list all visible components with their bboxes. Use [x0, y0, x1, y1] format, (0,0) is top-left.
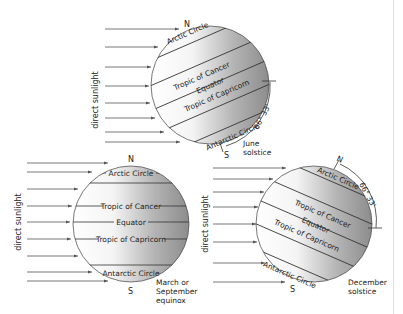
south-label: S: [224, 151, 229, 160]
december-solstice-panel: direct sunlight Arctic Circle Tropic of …: [201, 154, 397, 296]
caption-line3: equinox: [156, 296, 186, 305]
june-solstice-panel: direct sunlight Arctic Circle Tropic of …: [91, 14, 293, 160]
north-label: N: [128, 155, 134, 164]
north-label: N: [184, 20, 190, 29]
north-label: N: [335, 154, 344, 165]
south-label: S: [290, 285, 295, 294]
caption-line1: December: [348, 278, 388, 287]
caption-line2: solstice: [348, 287, 377, 296]
arctic-circle-label: Arctic Circle: [109, 169, 154, 178]
equinox-panel: direct sunlight Arctic Circle Tropic of …: [14, 155, 200, 305]
direct-sunlight-label: direct sunlight: [201, 195, 210, 252]
tropic-of-capricorn-label: Tropic of Capricorn: [95, 235, 166, 244]
direct-sunlight-label: direct sunlight: [91, 71, 100, 128]
equator-label: Equator: [116, 218, 146, 227]
direct-sunlight-label: direct sunlight: [14, 193, 23, 250]
page-edge-divider: [393, 0, 394, 314]
caption-line2: September: [156, 287, 198, 296]
caption-line1: June: [242, 139, 260, 148]
tropic-of-cancer-label: Tropic of Cancer: [100, 202, 162, 211]
south-label: S: [128, 287, 133, 296]
seasons-diagram: direct sunlight Arctic Circle Tropic of …: [0, 0, 403, 314]
caption-line2: solstice: [243, 148, 272, 157]
antarctic-circle-label: Antarctic Circle: [102, 269, 159, 278]
caption-line1: March or: [156, 278, 190, 287]
